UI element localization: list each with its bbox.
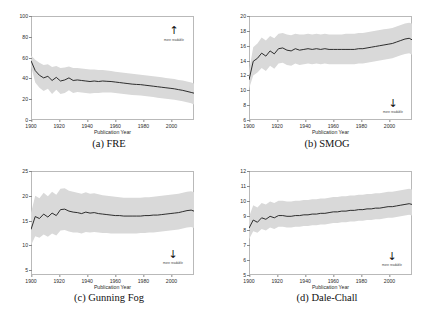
annotation-more-readable-gunning-fog: ↓ more readable [163,249,183,265]
x-tick-label: 1980 [356,123,367,129]
readability-figure: 020406080100 190019201940196019802000 Pu… [0,0,436,311]
x-tick-label: 1940 [300,278,311,284]
x-tick-label: 1920 [271,278,282,284]
x-tick-label: 1900 [243,123,254,129]
y-tick-label: 20 [22,193,28,199]
y-tick-label: 80 [22,34,28,40]
plot-area-dale-chall: 56789101112 190019201940196019802000 Pub… [249,171,412,275]
confidence-band [249,189,412,240]
y-tick-label: 10 [240,198,246,204]
x-axis-label-gunning-fog: Publication Year [94,284,131,290]
y-tick-label: 60 [22,55,28,61]
x-tick-label: 1920 [53,278,64,284]
arrow-down-icon: ↓ [388,98,397,109]
annotation-more-readable-fre: ↑ more readable [164,25,184,42]
confidence-band [249,23,412,89]
y-tick-label: 15 [22,218,28,224]
caption-smog: (b) SMOG [218,138,436,149]
annotation-label: more readable [164,38,184,42]
caption-dale-chall: (d) Dale-Chall [218,292,436,303]
x-tick-label: 1900 [25,278,36,284]
x-tick-label: 1920 [53,123,64,129]
y-tick-label: 5 [25,267,28,273]
arrow-down-icon: ↓ [168,249,177,260]
y-tick-label: 100 [20,13,29,19]
confidence-band [31,188,194,245]
x-tick-label: 1940 [300,123,311,129]
panel-smog: 68101214161820 190019201940196019802000 … [218,0,436,155]
x-tick-label: 1980 [356,278,367,284]
panel-dale-chall: 56789101112 190019201940196019802000 Pub… [218,155,436,311]
y-tick-label: 25 [22,168,28,174]
panel-fre: 020406080100 190019201940196019802000 Pu… [0,0,218,155]
x-tick-label: 1920 [271,123,282,129]
annotation-label: more readable [383,110,403,114]
y-tick-label: 6 [243,257,246,263]
y-tick-label: 11 [241,183,246,189]
annotation-label: more readable [163,261,183,265]
annotation-more-readable-smog: ↓ more readable [383,98,403,114]
x-tick-label: 2000 [166,278,177,284]
y-tick-label: 7 [243,242,246,248]
y-tick-label: 10 [240,87,246,93]
x-axis-label-smog: Publication Year [312,129,349,135]
y-tick-label: 10 [22,242,28,248]
annotation-label: more readable [382,263,402,267]
y-tick-label: 14 [240,58,246,64]
x-tick-label: 2000 [384,123,395,129]
y-tick-label: 20 [240,13,246,19]
arrow-up-icon: ↑ [169,25,178,36]
annotation-more-readable-dale-chall: ↓ more readable [382,251,402,267]
x-axis-label-fre: Publication Year [94,129,131,135]
plot-area-gunning-fog: 510152025 190019201940196019802000 Publi… [31,171,194,275]
y-tick-label: 40 [22,75,28,81]
x-tick-label: 2000 [384,278,395,284]
y-tick-label: 8 [243,227,246,233]
arrow-down-icon: ↓ [387,251,396,262]
panel-gunning-fog: 510152025 190019201940196019802000 Publi… [0,155,218,311]
y-tick-label: 9 [243,213,246,219]
y-tick-label: 8 [243,102,246,108]
caption-fre: (a) FRE [0,138,218,149]
y-tick-label: 12 [240,72,246,78]
x-tick-label: 1900 [243,278,254,284]
x-tick-label: 1940 [82,278,93,284]
x-tick-label: 1980 [138,278,149,284]
x-tick-label: 1940 [82,123,93,129]
y-tick-label: 16 [240,43,246,49]
y-tick-label: 18 [240,28,246,34]
x-axis-label-dale-chall: Publication Year [312,284,349,290]
plot-area-fre: 020406080100 190019201940196019802000 Pu… [31,16,194,120]
x-tick-label: 1900 [25,123,36,129]
x-tick-label: 1980 [138,123,149,129]
confidence-band [31,56,194,105]
caption-gunning-fog: (c) Gunning Fog [0,292,218,303]
y-tick-label: 20 [22,96,28,102]
y-tick-label: 12 [240,168,246,174]
x-tick-label: 2000 [166,123,177,129]
plot-area-smog: 68101214161820 190019201940196019802000 … [249,16,412,120]
